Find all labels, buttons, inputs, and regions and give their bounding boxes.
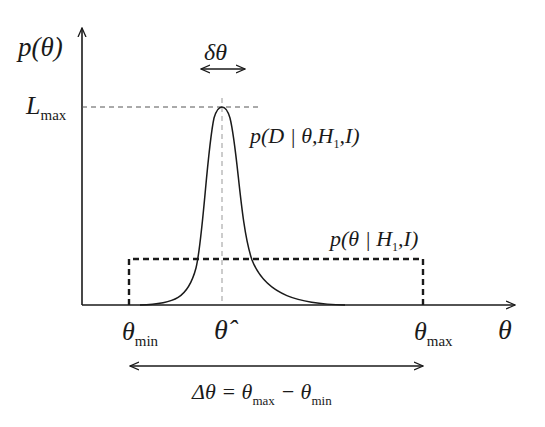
y-axis-label: p(θ) xyxy=(18,34,63,61)
likelihood-post: ,I) xyxy=(339,123,359,148)
range-minus: − θ xyxy=(275,379,312,404)
prior-range-label: Δθ = θmax − θmin xyxy=(192,381,332,407)
prior-pre: p(θ | H xyxy=(330,226,392,251)
lmax-main: L xyxy=(26,91,40,120)
range-delta: Δθ = θ xyxy=(192,379,252,404)
prior-label: p(θ | H1,I) xyxy=(330,228,418,253)
diagram-canvas xyxy=(0,0,545,427)
theta-max-sub: max xyxy=(427,333,453,349)
prior-distribution xyxy=(129,259,423,305)
prior-post: ,I) xyxy=(398,226,418,251)
range-sub1: max xyxy=(252,393,274,408)
theta-min-label: θmin xyxy=(122,319,158,349)
lmax-sub: max xyxy=(40,107,66,123)
theta-min-sub: min xyxy=(135,333,158,349)
peak-width-label: δθ xyxy=(204,40,227,64)
lmax-label: Lmax xyxy=(26,93,66,123)
theta-hat-label: θ̂ xyxy=(214,316,228,344)
range-sub2: min xyxy=(311,393,331,408)
theta-max-main: θ xyxy=(414,317,427,346)
x-axis-label: θ xyxy=(498,316,512,344)
likelihood-pre: p(D | θ,H xyxy=(250,123,333,148)
theta-max-label: θmax xyxy=(414,319,453,349)
theta-min-main: θ xyxy=(122,317,135,346)
likelihood-label: p(D | θ,H1,I) xyxy=(250,125,360,150)
